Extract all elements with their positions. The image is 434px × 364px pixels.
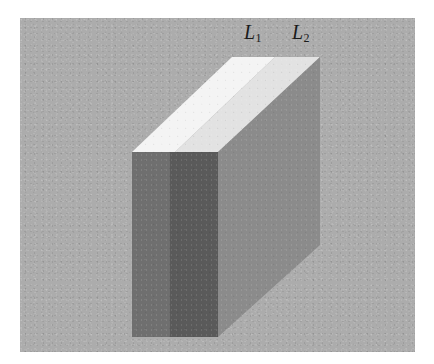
slab-illustration [0,0,434,364]
slab-front-face-strip-l2 [170,152,218,337]
luminance-label-l2-subscript: 2 [304,31,310,45]
luminance-label-l2-base: L [292,21,303,43]
luminance-label-l2: L2 [292,22,310,44]
luminance-label-l1-subscript: 1 [256,31,262,45]
luminance-label-l1-base: L [244,21,255,43]
slab-front-face-strip-l1 [132,152,170,337]
figure-root: L1 L2 [0,0,434,364]
luminance-label-l1: L1 [244,22,262,44]
